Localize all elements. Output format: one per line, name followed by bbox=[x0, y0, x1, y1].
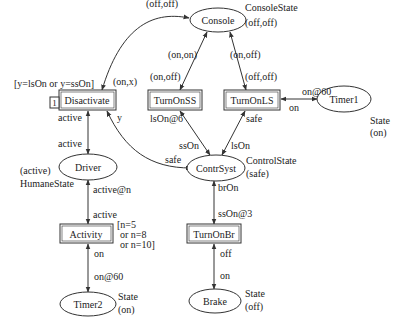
arc-label: (off,off) bbox=[245, 71, 277, 83]
arc-console-turnonss bbox=[180, 32, 207, 90]
transition-disactivate-name: Disactivate bbox=[65, 95, 111, 106]
place-console[interactable]: Console bbox=[190, 8, 246, 32]
place-console-name: Console bbox=[202, 15, 235, 26]
arc-label: y bbox=[117, 112, 122, 123]
svg-text:1: 1 bbox=[52, 98, 57, 108]
transition-turnonbr-name: TurnOnBr bbox=[193, 229, 235, 240]
arc-label: on@60 bbox=[94, 271, 123, 282]
arc-label: active bbox=[58, 112, 82, 123]
petri-net-diagram: Console ConsoleState (off,off) Timer1 St… bbox=[0, 0, 409, 335]
place-brake-name: Brake bbox=[203, 296, 227, 307]
arc-label: off bbox=[220, 248, 232, 259]
place-contrsyst-marking: (safe) bbox=[246, 168, 269, 180]
arc-label: lsOn bbox=[231, 140, 250, 151]
place-timer1-type: State bbox=[370, 115, 391, 126]
arc-label: (off,off) bbox=[146, 0, 178, 10]
place-brake[interactable]: Brake bbox=[189, 289, 241, 313]
place-brake-marking: (off) bbox=[245, 301, 263, 313]
arc-label: on bbox=[94, 248, 104, 259]
place-driver-marking: (active) bbox=[20, 165, 51, 177]
arc-label: on bbox=[289, 102, 299, 113]
arc-label: brOn bbox=[218, 182, 239, 193]
transition-turnonls[interactable]: TurnOnLS bbox=[224, 90, 280, 110]
transition-activity-name: Activity bbox=[70, 229, 103, 240]
place-console-type: ConsoleState bbox=[245, 2, 298, 13]
arc-label: (on,x) bbox=[113, 76, 137, 88]
arc-label: (on,off) bbox=[230, 49, 261, 61]
arc-label: on bbox=[220, 270, 230, 281]
transition-turnonls-name: TurnOnLS bbox=[231, 95, 274, 106]
arc-label: active bbox=[58, 138, 82, 149]
transition-activity[interactable]: Activity bbox=[60, 224, 113, 243]
transition-turnonbr[interactable]: TurnOnBr bbox=[187, 224, 241, 243]
place-console-marking: (off,off) bbox=[245, 17, 277, 29]
place-timer2-marking: (on) bbox=[118, 304, 135, 316]
place-driver-name: Driver bbox=[75, 162, 102, 173]
place-timer1-name: Timer1 bbox=[329, 94, 358, 105]
place-driver[interactable]: Driver bbox=[59, 154, 117, 180]
arc-label: active@n bbox=[93, 184, 131, 195]
transition-disactivate-priority: 1 bbox=[50, 97, 59, 108]
arc-label: lsOn@6 bbox=[150, 113, 183, 124]
place-driver-type: HumaneState bbox=[20, 178, 74, 189]
arc-label: safe bbox=[246, 113, 263, 124]
place-timer2-name: Timer2 bbox=[73, 299, 102, 310]
place-timer2-type: State bbox=[118, 291, 139, 302]
transition-disactivate-guard: [y=lsOn or y=ssOn] bbox=[14, 78, 94, 89]
arc-label: ssOn bbox=[179, 140, 199, 151]
transition-turnonss[interactable]: TurnOnSS bbox=[148, 90, 202, 110]
transition-turnonss-name: TurnOnSS bbox=[154, 95, 196, 106]
arc-label: active bbox=[93, 209, 117, 220]
arc-label: (on,off) bbox=[150, 71, 181, 83]
place-contrsyst-type: ControlState bbox=[246, 155, 297, 166]
arc-label: on@60 bbox=[302, 86, 331, 97]
arc-label: safe bbox=[165, 154, 182, 165]
place-timer2[interactable]: Timer2 bbox=[60, 292, 116, 316]
place-brake-type: State bbox=[245, 288, 266, 299]
arc-label: ssOn@3 bbox=[218, 208, 252, 219]
place-contrsyst-name: ContrSyst bbox=[196, 163, 236, 174]
transition-disactivate[interactable]: Disactivate bbox=[59, 90, 116, 110]
arc-label: (on,on) bbox=[168, 49, 197, 61]
transition-activity-guard-3: or n=10] bbox=[120, 239, 155, 250]
place-contrsyst[interactable]: ContrSyst bbox=[187, 155, 245, 181]
arc-console-turnonls bbox=[230, 32, 246, 90]
place-timer1-marking: (on) bbox=[370, 127, 387, 139]
